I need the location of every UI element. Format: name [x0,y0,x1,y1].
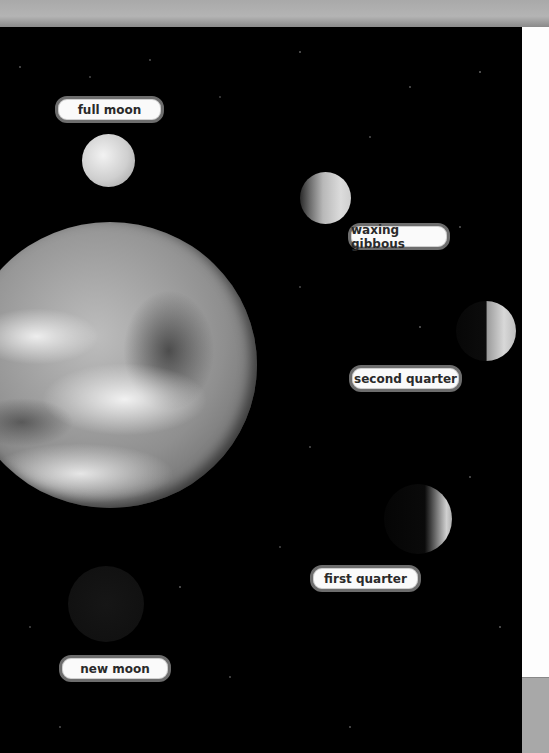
new-moon-label: new moon [59,655,171,682]
second-quarter-label-text: second quarter [354,372,457,386]
second-quarter-label: second quarter [349,365,462,392]
full-moon-label-text: full moon [78,103,142,117]
waxing-gibbous-moon-image [300,172,351,224]
first-quarter-label: first quarter [310,565,421,592]
first-quarter-label-text: first quarter [324,572,407,586]
bottom-right-gray-panel [522,677,549,753]
first-quarter-moon-image [384,484,452,554]
waxing-gibbous-label-text: waxing gibbous [351,223,447,251]
new-moon-image [68,566,144,642]
right-page-margin [522,27,549,677]
full-moon-image [82,134,135,187]
full-moon-label: full moon [55,96,164,123]
new-moon-label-text: new moon [80,662,149,676]
second-quarter-moon-image [456,301,516,361]
top-bar [0,0,549,27]
waxing-gibbous-label: waxing gibbous [348,223,450,250]
